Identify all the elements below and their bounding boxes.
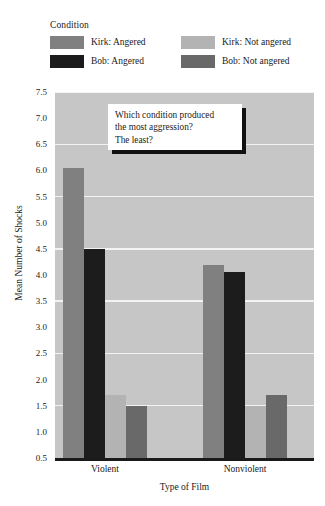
y-axis-ticks: 7.57.06.56.05.55.04.54.03.53.02.52.01.51… — [0, 92, 52, 458]
bar — [63, 168, 84, 458]
x-axis-line — [55, 458, 314, 461]
callout-line: the most aggression? — [115, 121, 236, 133]
y-axis-title: Mean Number of Shocks — [14, 173, 24, 333]
y-tick-label: 4.0 — [36, 271, 47, 280]
bar — [105, 395, 126, 458]
y-tick-label: 2.0 — [36, 375, 47, 384]
callout-box: Which condition produced the most aggres… — [108, 104, 242, 150]
legend-swatch-kirk-not-angered — [181, 36, 215, 49]
bar — [245, 406, 266, 458]
bar — [84, 249, 105, 458]
y-tick-label: 5.5 — [36, 192, 47, 201]
legend-row: Kirk: Angered Kirk: Not angered — [50, 36, 312, 49]
legend-label-kirk-angered: Kirk: Angered — [91, 36, 146, 49]
legend-label-bob-not-angered: Bob: Not angered — [222, 55, 290, 68]
legend-item-kirk-angered: Kirk: Angered — [50, 36, 181, 49]
callout-line: Which condition produced — [115, 109, 236, 121]
y-tick-label: 0.5 — [36, 454, 47, 463]
legend-item-bob-angered: Bob: Angered — [50, 55, 181, 68]
y-tick-label: 7.5 — [36, 88, 47, 97]
y-tick-label: 6.5 — [36, 140, 47, 149]
x-tick-label: Violent — [91, 464, 119, 474]
y-tick-label: 6.0 — [36, 166, 47, 175]
legend-swatch-bob-angered — [50, 55, 84, 68]
y-tick-label: 1.5 — [36, 401, 47, 410]
y-tick-label: 7.0 — [36, 114, 47, 123]
legend-swatch-bob-not-angered — [181, 55, 215, 68]
bar — [203, 265, 224, 458]
y-tick-label: 4.5 — [36, 244, 47, 253]
callout-line: The least? — [115, 134, 236, 146]
legend-item-kirk-not-angered: Kirk: Not angered — [181, 36, 312, 49]
y-tick-label: 3.0 — [36, 323, 47, 332]
y-tick-label: 3.5 — [36, 297, 47, 306]
legend-swatch-kirk-angered — [50, 36, 84, 49]
callout-annotation: Which condition produced the most aggres… — [108, 104, 242, 150]
legend-title: Condition — [50, 20, 312, 30]
x-axis-title: Type of Film — [55, 482, 314, 492]
y-tick-label: 5.0 — [36, 218, 47, 227]
y-tick-label: 2.5 — [36, 349, 47, 358]
legend-row: Bob: Angered Bob: Not angered — [50, 55, 312, 68]
y-tick-label: 1.0 — [36, 427, 47, 436]
legend: Condition Kirk: Angered Kirk: Not angere… — [50, 20, 312, 74]
x-axis-labels: ViolentNonviolent — [55, 464, 314, 480]
legend-item-bob-not-angered: Bob: Not angered — [181, 55, 312, 68]
bar — [224, 272, 245, 458]
bar — [126, 406, 147, 458]
legend-label-kirk-not-angered: Kirk: Not angered — [222, 36, 291, 49]
x-tick-label: Nonviolent — [224, 464, 267, 474]
legend-label-bob-angered: Bob: Angered — [91, 55, 144, 68]
bar — [266, 395, 287, 458]
